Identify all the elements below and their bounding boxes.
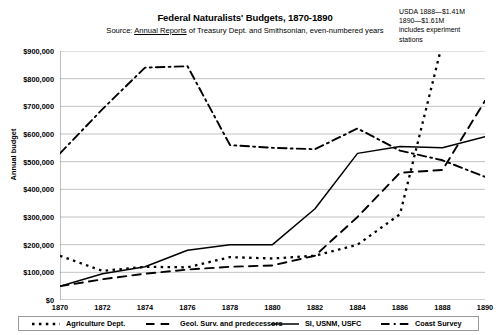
y-tick-label: $300,000 <box>0 213 54 222</box>
legend-swatch-solid <box>270 319 300 329</box>
legend-item[interactable]: Coast Survey <box>374 317 462 330</box>
y-tick-label: $200,000 <box>0 240 54 249</box>
x-tick-label: 1874 <box>125 303 165 312</box>
y-tick-label: $900,000 <box>0 47 54 56</box>
x-tick-label: 1870 <box>40 303 80 312</box>
legend-swatch-dash-dot <box>380 319 410 329</box>
y-tick-label: $100,000 <box>0 268 54 277</box>
chart-title: Federal Naturalists' Budgets, 1870-1890 <box>95 12 395 23</box>
annotation-line-4: stations <box>399 35 491 44</box>
y-tick-label: $600,000 <box>0 130 54 139</box>
legend-label: Agriculture Dept. <box>66 319 125 328</box>
y-tick-label: $700,000 <box>0 102 54 111</box>
annotation-line-3: includes experiment <box>399 25 491 34</box>
x-tick-label: 1882 <box>295 303 335 312</box>
y-tick-label: $500,000 <box>0 157 54 166</box>
legend-swatch-dashed <box>145 319 175 329</box>
x-tick-label: 1884 <box>338 303 378 312</box>
x-tick-label: 1878 <box>210 303 250 312</box>
annotation-line-1: USDA 1888—$1.41M <box>399 7 491 16</box>
series-line-3 <box>60 66 485 177</box>
x-tick-label: 1886 <box>380 303 420 312</box>
x-tick-label: 1876 <box>168 303 208 312</box>
legend-item[interactable]: Geol. Surv. and predecessors <box>139 317 282 330</box>
plot-area <box>60 51 485 300</box>
subtitle-prefix: Source: <box>106 26 134 35</box>
y-tick-label: $400,000 <box>0 185 54 194</box>
x-tick-label: 1890 <box>465 303 498 312</box>
series-group <box>60 51 485 286</box>
chart-subtitle: Source: Annual Reports of Treasury Dept.… <box>60 26 430 35</box>
series-line-2 <box>60 137 485 286</box>
legend-swatch-dotted <box>31 319 61 329</box>
legend-row: Agriculture Dept.Geol. Surv. and predece… <box>19 317 478 330</box>
chart-annotation: USDA 1888—$1.41M 1890—$1.61M includes ex… <box>399 7 491 44</box>
y-axis-ticks: $0$100,000$200,000$300,000$400,000$500,0… <box>0 0 54 335</box>
annotation-line-2: 1890—$1.61M <box>399 16 491 25</box>
legend-item[interactable]: Agriculture Dept. <box>25 317 125 330</box>
subtitle-suffix: of Treasury Dept. and Smithsonian, even-… <box>187 26 384 35</box>
legend-label: Coast Survey <box>415 319 462 328</box>
legend-label: SI, USNM, USFC <box>305 319 361 328</box>
x-tick-label: 1880 <box>253 303 293 312</box>
series-line-0 <box>60 51 443 271</box>
legend-item[interactable]: SI, USNM, USFC <box>264 317 361 330</box>
x-tick-label: 1888 <box>423 303 463 312</box>
y-tick-label: $800,000 <box>0 74 54 83</box>
chart-legend: Agriculture Dept.Geol. Surv. and predece… <box>18 316 479 331</box>
subtitle-source-link[interactable]: Annual Reports <box>134 26 186 35</box>
x-tick-label: 1872 <box>83 303 123 312</box>
plot-svg <box>60 51 485 300</box>
